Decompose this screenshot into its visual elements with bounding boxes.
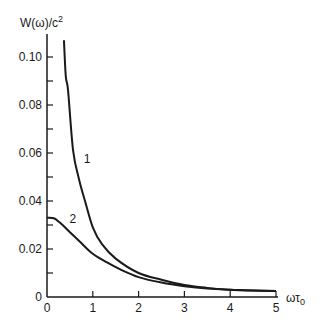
y-tick-label: 0.04: [19, 194, 43, 208]
chart: 01234500.020.040.060.080.10 12 W(ω)/c2 ω…: [0, 0, 324, 333]
x-tick-label: 5: [273, 301, 280, 315]
x-tick-label: 4: [227, 301, 234, 315]
x-tick-label: 3: [181, 301, 188, 315]
x-tick-label: 2: [135, 301, 142, 315]
curve-label-1: 1: [84, 152, 91, 166]
curve-1: [64, 40, 276, 291]
tick-labels: 01234500.020.040.060.080.10: [19, 50, 280, 315]
x-tick-label: 1: [89, 301, 96, 315]
curve-labels: 12: [69, 152, 90, 226]
y-tick-label: 0.02: [19, 242, 43, 256]
tick-marks: [47, 57, 276, 297]
x-tick-label: 0: [44, 301, 51, 315]
y-axis-title: W(ω)/c2: [20, 14, 63, 30]
x-axis-title: ωτ0: [286, 291, 305, 307]
y-tick-label: 0: [35, 290, 42, 304]
curve-label-2: 2: [69, 212, 76, 226]
y-tick-label: 0.10: [19, 50, 43, 64]
y-tick-label: 0.08: [19, 98, 43, 112]
y-tick-label: 0.06: [19, 146, 43, 160]
axes: [47, 34, 278, 297]
curves: [47, 40, 276, 291]
